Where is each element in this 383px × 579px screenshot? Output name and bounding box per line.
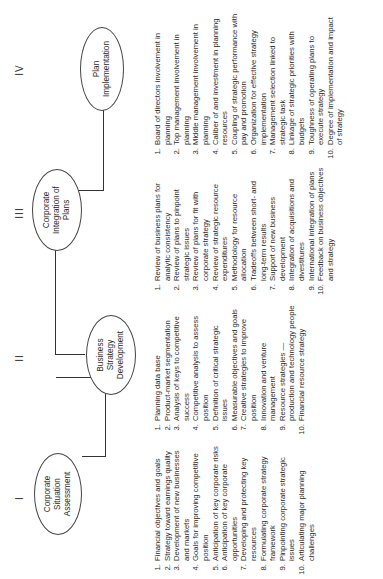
- list-item: 9.Resource strategies — production and t…: [278, 305, 297, 435]
- list-item: 10.Degree of implementation and impact o…: [326, 9, 345, 159]
- list-item: 7.Developing and protecting key resource…: [239, 445, 258, 575]
- list-item: 4.Review of strategic resource expenditu…: [211, 163, 230, 295]
- list-item: 5.Coupling of strategic performance with…: [230, 9, 249, 159]
- connector-2-3-horizontal: [55, 233, 56, 355]
- list-item: 6.Organization for effective strategy im…: [249, 9, 268, 159]
- stage-2-title-line: Strategy: [106, 331, 116, 379]
- stage-3-numeral: III: [14, 193, 25, 233]
- list-item: 9.International integration of plans: [307, 163, 317, 295]
- planning-stages-diagram: I II III IV Corporate Situation Assessme…: [0, 0, 383, 579]
- list-item: 8.Integration of acquisitions and divest…: [287, 163, 306, 295]
- list-item: 6.Measurable objectives and goals: [230, 305, 240, 435]
- stage-3-ellipse: Corporate Integration of Plans: [32, 169, 82, 251]
- list-item: 3.Analysis of keys to competitive succes…: [172, 305, 191, 435]
- list-item: 8.Formulating corporate strategy framewo…: [259, 445, 278, 575]
- stage-2-ellipse: Business Strategy Development: [86, 315, 136, 395]
- list-item: 6.Tradeoffs between short- and long-term…: [249, 163, 268, 295]
- list-item: 10.Feedback on business objectives and s…: [316, 163, 335, 295]
- stage-4-title-line: Plan: [92, 41, 102, 97]
- stage-4-list: 1.Board of directors involvement in plan…: [153, 9, 345, 159]
- list-item: 2.Review of plans to pinpoint strategic …: [172, 163, 191, 295]
- stage-2-numeral: II: [14, 338, 25, 378]
- stage-1-title-line: Situation: [53, 472, 63, 517]
- connector-1-vertical: [82, 456, 106, 457]
- stage-1-title-line: Assessment: [63, 472, 73, 517]
- list-item: 5.Definition of critical strategic issue…: [211, 305, 230, 435]
- list-item: 10.Articulating major planning challenge…: [297, 445, 316, 575]
- list-item: 7.Creative strategies to improve positio…: [239, 305, 258, 435]
- stage-3-title-line: Plans: [62, 186, 72, 234]
- stage-2-title-line: Business: [96, 331, 106, 379]
- list-item: 6.Anticipation of key corporate opportun…: [220, 445, 239, 575]
- list-item: 2.Top management involvement in planning: [172, 9, 191, 159]
- list-item: 3.Development of new businesses and mark…: [172, 445, 191, 575]
- list-item: 7.Support of new business development: [268, 163, 287, 295]
- stage-3-title-line: Integration of: [52, 186, 62, 234]
- list-item: 4.Competitive analysis to assess positio…: [191, 305, 210, 435]
- list-item: 1.Board of directors involvement in plan…: [153, 9, 172, 159]
- list-item: 5.Anticipation of key corporate risks: [211, 445, 221, 575]
- stage-1-list: 1.Financial objectives and goals 2.Strat…: [153, 445, 316, 575]
- list-item: 2.Product-market segmentation: [163, 305, 173, 435]
- list-item: 1.Planning data base: [153, 305, 163, 435]
- stage-2-title-line: Development: [116, 331, 126, 379]
- list-item: 4.Goals for improving competitive positi…: [191, 445, 210, 575]
- list-item: 10.Financial resource strategy: [297, 305, 307, 435]
- list-item: 5.Methodology for resource allocation: [230, 163, 249, 295]
- list-item: 2.Strategy toward earnings quality: [163, 445, 173, 575]
- list-item: 3.Middle management involvement in plann…: [191, 9, 210, 159]
- stage-2-list: 1.Planning data base 2.Product-market se…: [153, 305, 307, 435]
- stage-4-title-line: Implementation: [102, 41, 112, 97]
- stage-3-title-line: Corporate: [42, 186, 52, 234]
- stage-3-list: 1.Review of business plans for analytic …: [153, 163, 335, 295]
- list-item: 7.Management selection linked to strateg…: [268, 9, 287, 159]
- connector-2-3-drop: [55, 354, 85, 355]
- list-item: 9.Pinpointing corporate strategic issues: [278, 445, 297, 575]
- list-item: 1.Review of business plans for analytic …: [153, 163, 172, 295]
- stage-4-numeral: IV: [14, 50, 25, 90]
- list-item: 9.Toughness of operating plans to execut…: [307, 9, 326, 159]
- list-item: 3.Review of plans for fit with corporate…: [191, 163, 210, 295]
- list-item: 4.Caliber of and investment in planning …: [211, 9, 230, 159]
- list-item: 8.Linkage of strategic priorities with b…: [287, 9, 306, 159]
- list-item: 1.Financial objectives and goals: [153, 445, 163, 575]
- list-item: 8.Innovation and venture management: [259, 305, 278, 435]
- stage-4-ellipse: Plan Implementation: [80, 27, 124, 111]
- stage-1-numeral: I: [14, 478, 25, 518]
- stage-1-ellipse: Corporate Situation Assessment: [34, 453, 82, 535]
- stage-1-title-line: Corporate: [43, 472, 53, 517]
